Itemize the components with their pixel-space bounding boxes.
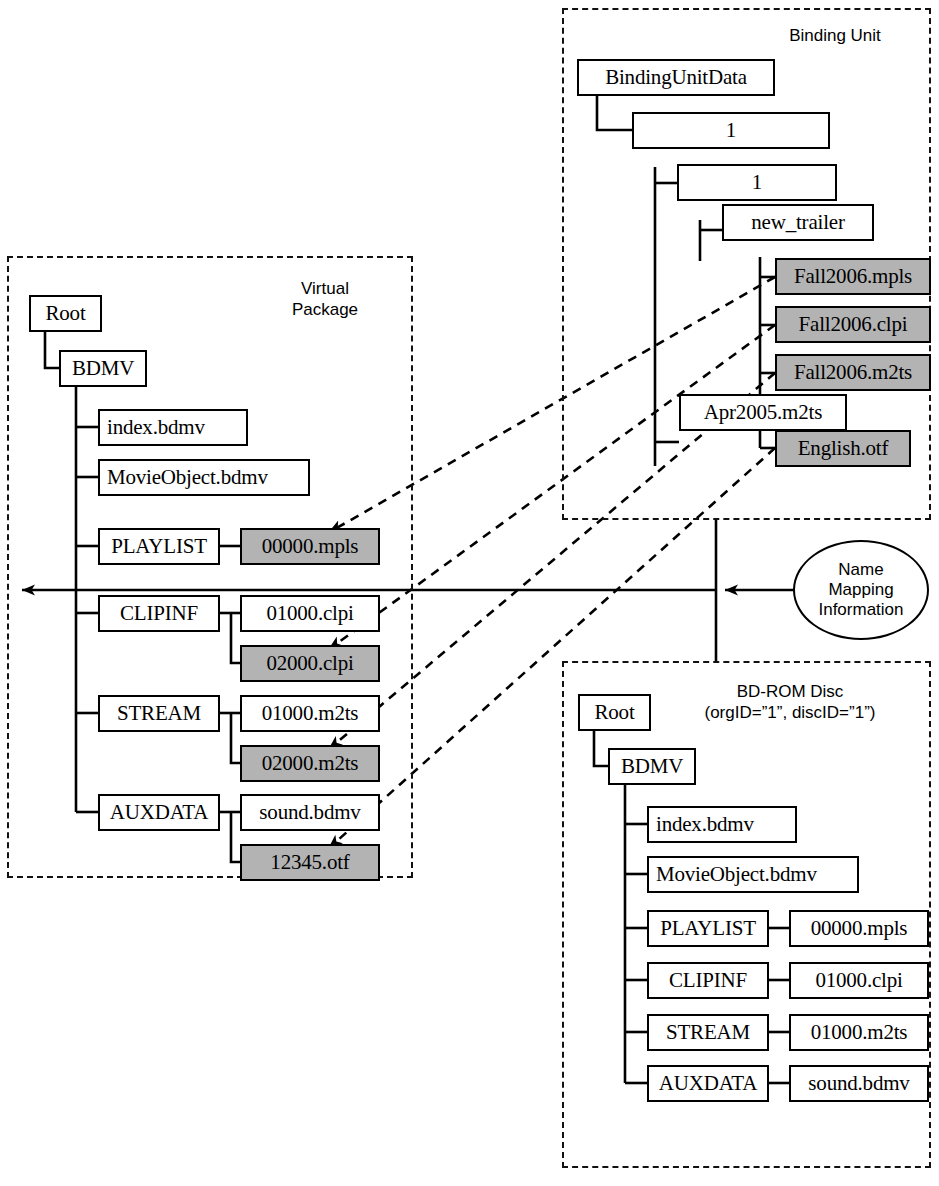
vp-node-bdmv[interactable]: BDMV [59, 350, 147, 387]
bd-node-movieobject-bdmv[interactable]: MovieObject.bdmv [647, 856, 859, 893]
vp-node-02000-clpi[interactable]: 02000.clpi [240, 645, 380, 682]
vp-node-00000-mpls[interactable]: 00000.mpls [240, 528, 380, 565]
bd-node-playlist-dir[interactable]: PLAYLIST [647, 910, 769, 947]
bd-node-clipinf-dir[interactable]: CLIPINF [647, 962, 769, 999]
vp-node-01000-m2ts[interactable]: 01000.m2ts [240, 695, 380, 732]
diagram-canvas: Virtual Package Root BDMV index.bdmv Mov… [0, 0, 939, 1186]
bu-node-new-trailer[interactable]: new_trailer [722, 204, 874, 241]
bu-node-fall2006-m2ts[interactable]: Fall2006.m2ts [775, 354, 931, 391]
vp-node-01000-clpi[interactable]: 01000.clpi [240, 595, 380, 632]
bu-node-disc-id[interactable]: 1 [677, 164, 837, 201]
bd-node-root[interactable]: Root [578, 694, 651, 731]
vp-node-12345-otf[interactable]: 12345.otf [240, 844, 380, 881]
bd-node-index-bdmv[interactable]: index.bdmv [647, 806, 797, 843]
bd-node-bdmv[interactable]: BDMV [608, 748, 696, 785]
bd-node-sound-bdmv[interactable]: sound.bdmv [789, 1065, 929, 1102]
vp-node-02000-m2ts[interactable]: 02000.m2ts [240, 745, 380, 782]
bd-node-01000-clpi[interactable]: 01000.clpi [789, 962, 929, 999]
vp-node-clipinf-dir[interactable]: CLIPINF [98, 595, 220, 632]
vp-node-root[interactable]: Root [29, 295, 102, 332]
group-bd-rom-disc-title: BD-ROM Disc (orgID=”1”, discID=”1”) [660, 681, 920, 723]
bu-node-org-id[interactable]: 1 [632, 112, 830, 149]
group-virtual-package-title: Virtual Package [250, 278, 400, 320]
vp-node-index-bdmv[interactable]: index.bdmv [98, 409, 248, 446]
vp-node-movieobject-bdmv[interactable]: MovieObject.bdmv [98, 459, 310, 496]
bu-node-fall2006-mpls[interactable]: Fall2006.mpls [775, 258, 931, 295]
bd-node-stream-dir[interactable]: STREAM [647, 1014, 769, 1051]
vp-node-auxdata-dir[interactable]: AUXDATA [98, 794, 220, 831]
bu-node-english-otf[interactable]: English.otf [775, 430, 911, 467]
vp-node-playlist-dir[interactable]: PLAYLIST [98, 528, 220, 565]
bd-node-auxdata-dir[interactable]: AUXDATA [647, 1065, 769, 1102]
group-binding-unit-title: Binding Unit [760, 25, 910, 46]
bu-node-apr2005-m2ts[interactable]: Apr2005.m2ts [679, 394, 847, 431]
vp-node-sound-bdmv[interactable]: sound.bdmv [240, 794, 380, 831]
vp-node-stream-dir[interactable]: STREAM [98, 695, 220, 732]
bu-node-fall2006-clpi[interactable]: Fall2006.clpi [775, 306, 931, 343]
bd-node-01000-m2ts[interactable]: 01000.m2ts [789, 1014, 929, 1051]
name-mapping-information-node[interactable]: Name Mapping Information [793, 540, 929, 640]
bd-node-00000-mpls[interactable]: 00000.mpls [789, 910, 929, 947]
bu-node-bindingunitdata[interactable]: BindingUnitData [577, 59, 775, 96]
